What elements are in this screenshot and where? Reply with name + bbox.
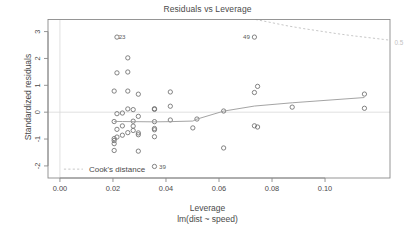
data-point <box>221 146 225 150</box>
cooks-distance-legend-label: Cook's distance <box>89 165 146 174</box>
data-point <box>120 133 124 137</box>
data-point <box>168 104 172 108</box>
x-axis-tick-label: 0.04 <box>159 184 173 193</box>
cooks-distance-contour <box>256 20 390 41</box>
data-point <box>126 89 130 93</box>
point-label: 49 <box>243 33 250 40</box>
data-point <box>136 114 140 118</box>
data-point <box>362 92 366 96</box>
data-point <box>131 128 135 132</box>
data-point <box>131 107 135 111</box>
point-labels: 2349390.5 <box>119 33 404 169</box>
residuals-vs-leverage-plot: Residuals vs Leverage Leverage lm(dist ~… <box>0 0 415 235</box>
data-point <box>126 70 130 74</box>
data-point <box>152 135 156 139</box>
cooks-distance-legend: Cook's distance <box>64 165 146 174</box>
reference-lines <box>48 20 390 179</box>
data-point <box>168 90 172 94</box>
data-point <box>126 107 130 111</box>
data-point <box>115 127 119 131</box>
data-point <box>136 149 140 153</box>
y-axis-tick-label: 1 <box>33 83 42 87</box>
axis-ticks <box>44 32 325 182</box>
data-point <box>112 89 116 93</box>
data-point <box>112 148 116 152</box>
data-point <box>290 105 294 109</box>
data-point <box>115 71 119 75</box>
x-axis-tick-label: 0.10 <box>318 184 332 193</box>
data-point <box>252 35 256 39</box>
x-axis-tick-label: 0.08 <box>265 184 279 193</box>
data-point <box>131 124 135 128</box>
y-axis-tick-label: 0 <box>33 110 42 114</box>
y-axis-tick-label: 2 <box>33 56 42 60</box>
data-point <box>126 56 130 60</box>
axis-tick-labels: 0.000.020.040.060.080.10-2-10123 <box>33 30 332 193</box>
scatter-points <box>112 35 367 169</box>
plot-box <box>48 20 390 179</box>
x-axis-tick-label: 0.00 <box>53 184 67 193</box>
point-label: 39 <box>159 163 166 170</box>
point-label: 23 <box>119 33 126 40</box>
data-point <box>362 106 366 110</box>
data-point <box>112 142 116 146</box>
data-point <box>120 111 124 115</box>
data-point <box>255 84 259 88</box>
cook-contour-level-label: 0.5 <box>395 39 404 46</box>
plot-frame <box>48 20 390 179</box>
x-axis-tick-label: 0.06 <box>212 184 226 193</box>
loess-smooth-path <box>114 98 364 122</box>
data-point <box>120 124 124 128</box>
data-point <box>252 90 256 94</box>
loess-smooth-line <box>114 98 364 122</box>
y-axis-tick-label: 3 <box>33 30 42 34</box>
y-axis-tick-label: -1 <box>33 136 42 143</box>
data-point <box>191 126 195 130</box>
x-axis-tick-label: 0.02 <box>106 184 120 193</box>
data-point <box>136 92 140 96</box>
data-point <box>126 130 130 134</box>
y-axis-tick-label: -2 <box>33 163 42 170</box>
cooks-distance-contours <box>256 20 390 41</box>
data-point <box>152 164 156 168</box>
